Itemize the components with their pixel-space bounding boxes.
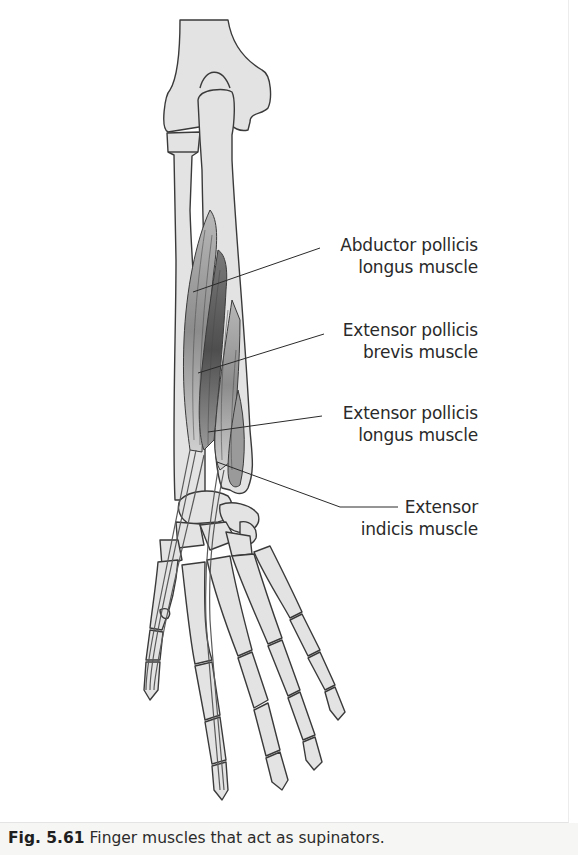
label-line: Extensor [361, 496, 478, 518]
label-extensor-pollicis-brevis: Extensor pollicis brevis muscle [343, 319, 478, 363]
label-line: brevis muscle [343, 341, 478, 363]
label-line: Extensor pollicis [343, 402, 478, 424]
label-line: indicis muscle [361, 518, 478, 540]
label-abductor-pollicis-longus: Abductor pollicis longus muscle [340, 234, 478, 278]
label-line: longus muscle [343, 424, 478, 446]
label-extensor-pollicis-longus: Extensor pollicis longus muscle [343, 402, 478, 446]
label-extensor-indicis: Extensor indicis muscle [361, 496, 478, 540]
thumb-bones [144, 560, 178, 700]
label-line: Extensor pollicis [343, 319, 478, 341]
caption-text: Finger muscles that act as supinators. [90, 829, 385, 847]
label-line: longus muscle [340, 256, 478, 278]
figure-caption: Fig. 5.61Finger muscles that act as supi… [8, 829, 385, 847]
label-line: Abductor pollicis [340, 234, 478, 256]
forearm-hand-illustration [0, 0, 578, 822]
figure-number: Fig. 5.61 [8, 829, 85, 847]
